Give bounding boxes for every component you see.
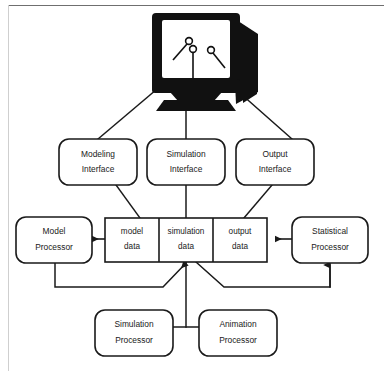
simulation-interface[interactable]: Simulation Interface bbox=[147, 139, 225, 185]
animation-processor-line2: Processor bbox=[219, 335, 257, 345]
pointer-dot-1 bbox=[186, 38, 193, 45]
simulation-interface-line1: Simulation bbox=[166, 149, 205, 159]
modeling-interface[interactable]: Modeling Interface bbox=[59, 139, 137, 185]
link-modelprocessor-feedback bbox=[55, 263, 186, 287]
pointer-dot-3 bbox=[208, 47, 215, 54]
architecture-diagram: Modeling Interface Simulation Interface … bbox=[0, 0, 384, 371]
monitor-lip bbox=[152, 79, 240, 93]
model-processor-line2: Processor bbox=[35, 242, 73, 252]
statistical-processor-line1: Statistical bbox=[312, 226, 348, 236]
monitor-base bbox=[156, 100, 236, 111]
data-store-row: model data simulation data output data bbox=[105, 218, 267, 262]
simulation-data-line2: data bbox=[178, 242, 194, 251]
simulation-processor[interactable]: Simulation Processor bbox=[95, 310, 173, 356]
output-data-line2: data bbox=[232, 242, 248, 251]
output-interface-line2: Interface bbox=[259, 164, 292, 174]
model-data-line2: data bbox=[124, 242, 140, 251]
simulation-interface-line2: Interface bbox=[170, 164, 203, 174]
monitor-neck bbox=[170, 92, 222, 101]
statistical-processor-line2: Processor bbox=[311, 242, 349, 252]
model-processor[interactable]: Model Processor bbox=[16, 217, 92, 263]
modeling-interface-line1: Modeling bbox=[81, 149, 115, 159]
model-processor-line1: Model bbox=[43, 226, 66, 236]
link-simdata-statistical bbox=[196, 262, 330, 287]
simulation-processor-line1: Simulation bbox=[114, 319, 153, 329]
simulation-data-line1: simulation bbox=[168, 227, 205, 236]
animation-processor-line1: Animation bbox=[219, 319, 257, 329]
interface-row: Modeling Interface Simulation Interface … bbox=[59, 139, 314, 185]
pointer-dot-2 bbox=[190, 46, 197, 53]
link-output-outputdata bbox=[244, 185, 272, 218]
output-interface-line1: Output bbox=[262, 149, 288, 159]
statistical-processor[interactable]: Statistical Processor bbox=[292, 217, 368, 263]
animation-processor[interactable]: Animation Processor bbox=[199, 310, 277, 356]
output-interface[interactable]: Output Interface bbox=[236, 139, 314, 185]
data-store-outline bbox=[105, 218, 267, 262]
output-data-line1: output bbox=[229, 227, 252, 236]
link-modeling-modeldata bbox=[116, 185, 140, 218]
simulation-processor-line2: Processor bbox=[115, 335, 153, 345]
crt-monitor bbox=[152, 13, 258, 111]
model-data-line1: model bbox=[121, 227, 143, 236]
modeling-interface-line2: Interface bbox=[82, 164, 115, 174]
